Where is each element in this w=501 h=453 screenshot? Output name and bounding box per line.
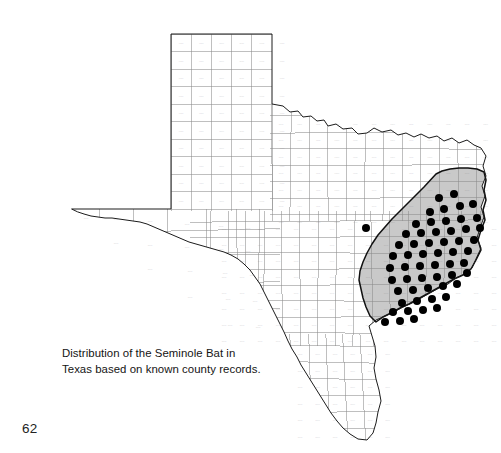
caption-line-1: Distribution of the Seminole Bat in [62,346,292,362]
county-record-dot [453,280,461,288]
svg-text:––––: –––– [492,324,497,326]
svg-text:––––: –––– [438,324,443,326]
county-record-dot [460,259,468,267]
svg-text:––––: –––– [409,123,414,125]
county-record-dot [440,205,448,213]
county-record-dot [447,227,455,235]
county-record-dot [386,264,394,272]
svg-text:––––: –––– [258,292,263,294]
svg-text:––––: –––– [483,139,488,141]
svg-text:––––: –––– [438,292,443,294]
svg-text:––––: –––– [222,324,227,326]
svg-text:––––: –––– [385,419,390,421]
svg-text:––––: –––– [353,123,358,125]
county-record-dot [389,308,397,316]
svg-text:––––: –––– [385,436,390,438]
svg-text:––––: –––– [222,276,227,278]
svg-text:––––: –––– [298,419,303,421]
county-record-dot [417,229,425,237]
county-record-dot [416,262,424,270]
svg-text:––––: –––– [226,298,231,300]
county-record-dot [473,214,481,222]
svg-text:––––: –––– [222,340,227,342]
svg-text:––––: –––– [465,123,470,125]
county-record-dot [469,200,477,208]
county-record-dot [409,286,417,294]
svg-text:––––: –––– [148,268,153,270]
county-record-dot [428,295,436,303]
svg-text:––––: –––– [385,370,390,372]
county-record-dot [432,228,440,236]
county-record-dot [449,248,457,256]
county-record-dot [419,306,427,314]
svg-text:––––: –––– [456,292,461,294]
county-record-dot [389,252,397,260]
county-record-dot [457,215,465,223]
county-record-dot [418,274,426,282]
county-record-dot [381,318,389,326]
svg-text:––––: –––– [280,77,285,79]
county-record-dot [404,307,412,315]
svg-text:––––: –––– [390,123,395,125]
svg-text:––––: –––– [258,308,263,310]
county-record-dot [395,241,403,249]
svg-text:––––: –––– [492,308,497,310]
svg-text:––––: –––– [84,217,89,219]
county-record-dot [402,230,410,238]
svg-text:––––: –––– [384,340,389,342]
svg-text:––––: –––– [420,324,425,326]
figure-caption: Distribution of the Seminole Bat in Texa… [62,346,292,377]
county-record-dot [470,236,478,244]
county-record-dot [426,208,434,216]
county-record-dot [424,284,432,292]
svg-text:––––: –––– [240,340,245,342]
svg-text:––––: –––– [315,436,320,438]
county-record-dot [446,260,454,268]
county-record-dot [439,282,447,290]
svg-text:––––: –––– [492,244,497,246]
svg-text:––––: –––– [298,386,303,388]
page-number: 62 [22,421,38,436]
county-record-dot [433,304,441,312]
county-record-dot [401,263,409,271]
svg-text:––––: –––– [385,386,390,388]
svg-text:––––: –––– [492,260,497,262]
county-record-dot [455,237,463,245]
county-record-dot [419,250,427,258]
svg-text:––––: –––– [298,436,303,438]
svg-text:––––: –––– [223,272,228,274]
svg-text:––––: –––– [492,228,497,230]
svg-text:––––: –––– [240,276,245,278]
svg-text:––––: –––– [385,403,390,405]
svg-text:––––: –––– [492,276,497,278]
county-record-dot [396,317,404,325]
county-record-dot [448,271,456,279]
county-record-dot [440,238,448,246]
svg-text:––––: –––– [402,324,407,326]
svg-text:––––: –––– [492,292,497,294]
county-record-dot [431,261,439,269]
svg-text:––––: –––– [474,324,479,326]
county-record-dot [435,194,443,202]
county-record-dot [464,247,472,255]
svg-text:––––: –––– [148,244,153,246]
county-record-dot [398,299,406,307]
svg-text:––––: –––– [256,326,261,328]
county-record-dot [434,249,442,257]
svg-text:––––: –––– [222,260,227,262]
svg-text:––––: –––– [315,403,320,405]
svg-text:––––: –––– [114,242,119,244]
county-record-dot [388,276,396,284]
svg-text:––––: –––– [474,292,479,294]
county-record-dot [403,275,411,283]
svg-text:––––: –––– [298,403,303,405]
county-record-dot [413,297,421,305]
county-record-dot [410,315,418,323]
svg-text:––––: –––– [402,340,407,342]
svg-text:––––: –––– [372,123,377,125]
svg-text:––––: –––– [474,276,479,278]
svg-text:––––: –––– [456,308,461,310]
svg-text:––––: –––– [420,340,425,342]
county-record-dot [462,225,470,233]
svg-text:––––: –––– [240,324,245,326]
